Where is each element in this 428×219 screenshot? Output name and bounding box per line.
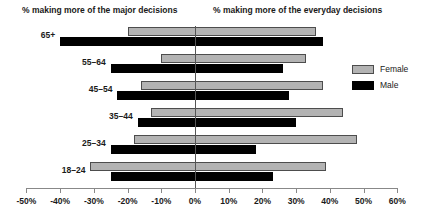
x-axis-tick <box>229 188 230 193</box>
x-axis-tick-label: -30% <box>84 196 104 206</box>
grouped-bar-chart: % making more of the major decisions % m… <box>0 0 428 219</box>
category-label: 65+ <box>41 30 55 40</box>
header-major-decisions: % making more of the major decisions <box>22 5 177 15</box>
x-axis-tick-label: -10% <box>151 196 171 206</box>
zero-reference-line <box>195 26 196 189</box>
x-axis-tick-label: -40% <box>50 196 70 206</box>
x-axis-tick <box>195 188 196 193</box>
category-label: 25–34 <box>82 138 106 148</box>
legend-swatch-female <box>352 65 374 74</box>
x-axis-tick-label: -20% <box>118 196 138 206</box>
x-axis-tick-label: 60% <box>389 196 406 206</box>
chart-row: 25–34 <box>0 134 428 161</box>
bar-male <box>111 64 283 73</box>
legend-label: Male <box>380 80 398 90</box>
bar-male <box>60 37 323 46</box>
legend-item: Male <box>352 77 424 93</box>
bar-male <box>111 172 273 181</box>
x-axis-tick <box>94 188 95 193</box>
legend-swatch-male <box>352 81 374 90</box>
legend: FemaleMale <box>352 61 424 93</box>
bar-female <box>128 27 317 36</box>
bar-female <box>134 135 357 144</box>
header-everyday-decisions: % making more of the everyday decisions <box>213 5 382 15</box>
x-axis-tick-label: 30% <box>288 196 305 206</box>
x-axis-line <box>26 188 398 189</box>
x-axis-tick-label: 50% <box>355 196 372 206</box>
x-axis-tick <box>330 188 331 193</box>
category-label: 35–44 <box>109 111 133 121</box>
x-axis-tick-label: 40% <box>321 196 338 206</box>
x-axis-tick <box>161 188 162 193</box>
x-axis-tick <box>128 188 129 193</box>
chart-row: 65+ <box>0 26 428 53</box>
legend-item: Female <box>352 61 424 77</box>
chart-row: 18–24 <box>0 161 428 188</box>
x-axis-tick <box>397 188 398 193</box>
bar-female <box>161 54 306 63</box>
plot-area: 65+55–6445–5435–4425–3418–24 <box>0 26 428 188</box>
x-axis-tick-label: 10% <box>220 196 237 206</box>
x-axis-tick <box>26 188 27 193</box>
bar-female <box>90 162 326 171</box>
x-axis-tick-label: -50% <box>16 196 36 206</box>
x-axis-tick <box>364 188 365 193</box>
bar-female <box>141 81 323 90</box>
bar-male <box>111 145 256 154</box>
category-label: 55–64 <box>82 57 106 67</box>
bar-male <box>117 91 289 100</box>
x-axis-tick <box>60 188 61 193</box>
x-axis-tick <box>262 188 263 193</box>
x-axis-tick-label: 0% <box>189 196 201 206</box>
bar-male <box>138 118 296 127</box>
legend-label: Female <box>380 64 408 74</box>
category-label: 18–24 <box>62 165 86 175</box>
x-axis-tick-label: 20% <box>254 196 271 206</box>
bar-female <box>151 108 343 117</box>
chart-row: 35–44 <box>0 107 428 134</box>
category-label: 45–54 <box>89 84 113 94</box>
x-axis-tick <box>296 188 297 193</box>
